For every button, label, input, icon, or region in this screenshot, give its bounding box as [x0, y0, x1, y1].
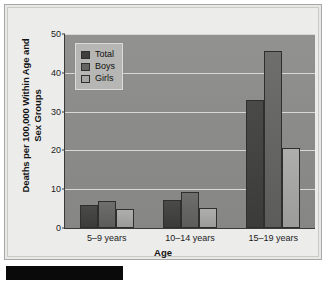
y-axis-tick-label: 20: [51, 145, 61, 155]
legend-item: Total: [81, 49, 115, 60]
legend-label-girls: Girls: [95, 74, 114, 83]
x-axis-tick-label: 15–19 years: [232, 233, 315, 243]
chart-figure-inner: Deaths per 100,000 Within Age and Sex Gr…: [7, 7, 319, 257]
bar-total-3: [246, 100, 264, 228]
bar-group: 15–19 years: [232, 34, 315, 228]
bar-boys-3: [264, 51, 282, 228]
legend-swatch-girls: [81, 75, 90, 83]
y-axis-tick-label: 0: [56, 223, 61, 233]
legend-item: Boys: [81, 61, 115, 72]
y-axis-tick-label: 50: [51, 29, 61, 39]
chart-figure-frame: Deaths per 100,000 Within Age and Sex Gr…: [4, 4, 322, 260]
plot-area: 01020304050 5–9 years10–14 years15–19 ye…: [64, 34, 315, 229]
chart-legend: Total Boys Girls: [75, 43, 123, 90]
bar-girls-3: [282, 148, 300, 228]
legend-label-total: Total: [95, 50, 114, 59]
y-axis-tick-label: 30: [51, 107, 61, 117]
y-axis-tick-label: 10: [51, 184, 61, 194]
bar-girls-2: [199, 208, 217, 228]
legend-label-boys: Boys: [95, 62, 115, 71]
bar-total-1: [80, 205, 98, 228]
bar-boys-2: [181, 192, 199, 228]
bar-boys-1: [98, 201, 116, 228]
bar-girls-1: [116, 209, 134, 228]
legend-item: Girls: [81, 73, 115, 84]
bar-group: 10–14 years: [148, 34, 231, 228]
x-axis-title: Age: [8, 247, 318, 258]
x-axis-tick-label: 10–14 years: [148, 233, 231, 243]
x-axis-tick-label: 5–9 years: [65, 233, 148, 243]
y-axis-title: Deaths per 100,000 Within Age and Sex Gr…: [20, 31, 43, 201]
y-axis-tick-label: 40: [51, 68, 61, 78]
figure-page: Deaths per 100,000 Within Age and Sex Gr…: [0, 0, 330, 283]
legend-swatch-boys: [81, 63, 90, 71]
legend-swatch-total: [81, 51, 90, 59]
bar-total-2: [163, 200, 181, 228]
caption-bar: [6, 266, 123, 280]
